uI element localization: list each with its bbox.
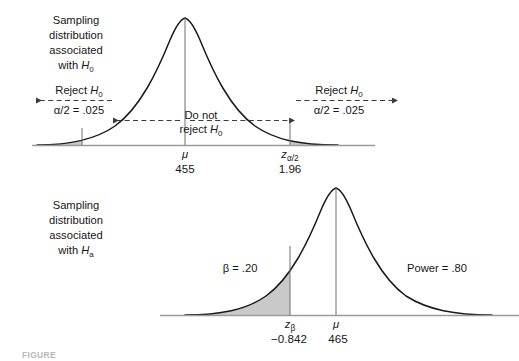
top-left-reject-h-subscript: 0 [98, 90, 102, 99]
top-left-reject-h-symbol: H [90, 84, 98, 96]
bottom-title-line-3: associated [30, 228, 122, 243]
top-right-alpha-label: α/2 = .025 [314, 104, 364, 117]
top-donotreject-line-2: reject H0 [179, 122, 222, 139]
bottom-normal-curve [185, 188, 492, 315]
top-right-reject-label: Reject H0 [315, 84, 362, 100]
top-title-line-1: Sampling [30, 13, 122, 28]
top-left-reject-label: Reject H0 [55, 84, 102, 100]
bottom-beta-label: β = .20 [223, 262, 258, 275]
top-title-line-3: associated [30, 43, 122, 58]
bottom-title-line-1: Sampling [30, 198, 122, 213]
bottom-tick-mu-value: 465 [328, 332, 347, 346]
bottom-tick-zbeta-value: −0.842 [271, 332, 307, 346]
top-left-reject-text: Reject [55, 84, 90, 96]
bottom-power-label: Power = .80 [407, 262, 467, 275]
top-title-line-4: with H0 [30, 58, 122, 76]
top-donotreject-h-symbol: H [210, 123, 218, 135]
top-title-h-subscript: 0 [89, 65, 93, 74]
top-donotreject-line-1: Do not [179, 108, 222, 122]
bottom-title-line-4: with Ha [30, 243, 122, 261]
top-right-reject-h-symbol: H [350, 84, 358, 96]
top-right-reject-text: Reject [315, 84, 350, 96]
top-panel-title: Sampling distribution associated with H0 [30, 13, 122, 76]
bottom-title-h-subscript: a [89, 250, 93, 259]
top-title-line-2: distribution [30, 28, 122, 43]
figure-root: Sampling distribution associated with H0… [0, 0, 519, 361]
top-tick-zalpha-value: 1.96 [279, 162, 302, 176]
bottom-title-with: with [58, 244, 81, 256]
top-donotreject-label: Do not reject H0 [179, 108, 222, 139]
bottom-panel-title: Sampling distribution associated with Ha [30, 198, 122, 261]
bottom-beta-shading [185, 188, 492, 315]
top-title-with: with [58, 59, 81, 71]
top-donotreject-h-subscript: 0 [218, 129, 222, 138]
top-tick-mu-symbol: μ [182, 148, 188, 161]
top-left-alpha-label: α/2 = .025 [54, 104, 104, 117]
top-tick-mu-value: 455 [175, 162, 194, 176]
top-right-reject-h-subscript: 0 [358, 90, 362, 99]
bottom-panel-graph [160, 188, 519, 316]
bottom-tick-mu-symbol: μ [333, 318, 339, 331]
bottom-title-line-2: distribution [30, 213, 122, 228]
bottom-mu-glyph: μ [333, 318, 339, 330]
figure-caption: FIGURE [22, 350, 56, 360]
top-donotreject-reject-text: reject [179, 123, 209, 135]
top-mu-glyph: μ [182, 148, 188, 160]
